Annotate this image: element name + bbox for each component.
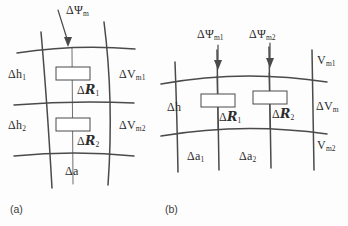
panel-a-flux-arrow-head [64, 37, 72, 47]
panel-a-mmf-1-label: ΔVm1 [119, 68, 145, 80]
panel-b-potential-top-label: Vm1 [317, 54, 335, 66]
panel-a-height-1-label: Δh1 [8, 68, 26, 80]
panel-b-flux-arrow-1-head [214, 60, 222, 70]
panel-b-flux-arrow-2-head [266, 58, 274, 68]
panel-b-tag: (b) [165, 203, 178, 215]
panel-b-reluctance-box-2 [253, 91, 287, 104]
panel-a-mmf-2-label: ΔVm2 [119, 119, 145, 131]
panel-b-vline-1 [175, 62, 178, 172]
panel-a-vline-left [41, 32, 52, 188]
panel-a-area-label: Δa [65, 165, 78, 177]
panel-b-area-1-label: Δa1 [187, 150, 204, 162]
panel-a-height-2-label: Δh2 [8, 119, 26, 131]
panel-b-mmf-label: ΔVm [316, 100, 339, 112]
panel-b-hline-bottom [161, 128, 327, 136]
panel-a-tag: (a) [10, 203, 23, 215]
panel-b-area-2-label: Δa2 [239, 150, 256, 162]
panel-a-reluctance-box-1 [56, 67, 90, 80]
panel-a-hline-mid [14, 102, 134, 105]
panel-b-height-label: Δh [167, 101, 181, 113]
panel-b-potential-bottom-label: Vm2 [317, 139, 335, 151]
figure-root: ΔΨm Δh1 Δh2 ΔR1 ΔR2 ΔVm1 ΔVm2 Δa (a) ΔΨm… [0, 0, 348, 226]
panel-b-hline-top [161, 76, 327, 84]
panel-b-reluctance-box-1 [201, 94, 235, 107]
panel-b-vline-4 [312, 50, 314, 170]
panel-a-flux-label: ΔΨm [66, 4, 89, 16]
panel-b-reluctance-2-label: ΔR2 [272, 108, 294, 121]
panel-a-hline-top [17, 47, 135, 53]
panel-a-reluctance-box-2 [56, 118, 90, 131]
panel-a-vline-right [104, 22, 110, 185]
panel-b-reluctance-1-label: ΔR1 [219, 111, 241, 124]
panel-a-hline-bottom [14, 153, 134, 156]
panel-a-reluctance-1-label: ΔR1 [77, 84, 99, 97]
panel-a-reluctance-2-label: ΔR2 [77, 135, 99, 148]
panel-b-flux-2-label: ΔΨm2 [249, 28, 276, 40]
panel-b-flux-1-label: ΔΨm1 [197, 28, 224, 40]
